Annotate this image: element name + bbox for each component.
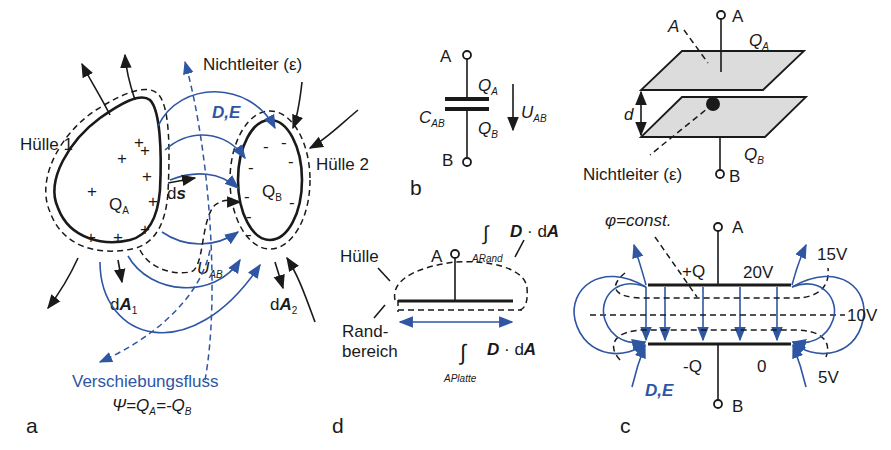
svg-text:+: + <box>142 167 152 186</box>
svg-text:-: - <box>260 228 266 247</box>
panel-label-c: c <box>620 414 631 437</box>
terminal-b <box>714 400 722 408</box>
field-line-de <box>128 256 240 288</box>
da2-label: dA2 <box>270 295 298 316</box>
terminal-a-label: A <box>431 247 443 266</box>
upper-plate <box>641 51 804 90</box>
integral-platte-limit: APlatte <box>443 373 477 384</box>
svg-text:-: - <box>246 225 252 244</box>
integrand-platte: D · dA <box>487 340 536 359</box>
svg-text:-: - <box>289 193 295 212</box>
svg-text:-: - <box>288 152 294 171</box>
svg-text:-: - <box>244 187 250 206</box>
huelle-label: Hülle <box>340 247 379 266</box>
plus-charges: + + + + + + + + + <box>86 133 158 247</box>
phi-const-label: φ=const. <box>605 211 671 230</box>
panel-plate-capacitor: A B A QA QB d Nichtleiter (ε) <box>583 7 806 186</box>
charge-qa-label: QA <box>109 195 129 216</box>
v0-label: 0 <box>757 357 766 376</box>
flux-title: Verschiebungsfluss <box>72 372 218 391</box>
huelle-2-label: Hülle 2 <box>316 155 369 174</box>
terminal-a <box>714 223 722 231</box>
terminal-b-label: B <box>732 397 743 416</box>
fringe-line <box>793 345 806 387</box>
v15-label: 15V <box>817 245 848 264</box>
plus-q-label: +Q <box>682 262 705 281</box>
da1-label: dA1 <box>110 295 138 316</box>
integrand-rand: D · dA <box>510 222 559 241</box>
panel-c: φ=const. A B +Q 20V 15V 10V 5V 0 -Q D,E … <box>574 211 878 437</box>
svg-text:-: - <box>263 137 269 156</box>
qb-label: QB <box>478 119 498 140</box>
nichtleiter-label: Nichtleiter (ε) <box>203 55 302 74</box>
da1-vector <box>118 260 122 282</box>
terminal-a-label: A <box>732 218 744 237</box>
huelle-2-outline <box>230 111 310 249</box>
fringe-line <box>632 345 645 387</box>
panel-a: + + + + + + + + + - - - - - - - - - QA Q… <box>20 55 369 437</box>
field-line-de <box>162 232 238 244</box>
svg-text:+: + <box>86 228 96 247</box>
fringe-line <box>792 284 835 343</box>
panel-b: A B QA QB CAB UAB b <box>410 47 547 199</box>
field-arrow-in <box>293 82 302 128</box>
flux-surface <box>185 62 212 380</box>
uab-label: UAB <box>197 259 223 280</box>
panel-label-b: b <box>410 176 422 199</box>
svg-text:+: + <box>140 220 150 239</box>
terminal-b <box>463 158 471 166</box>
randbereich-label: bereich <box>342 342 398 361</box>
lower-plate <box>641 97 806 137</box>
de-label: D,E <box>212 103 241 122</box>
svg-text:-: - <box>248 158 254 177</box>
panel-d: Hülle Rand- bereich A ∫ ARand D · dA ∫ A… <box>332 222 559 437</box>
svg-text:-: - <box>246 207 252 226</box>
terminal-b <box>716 170 724 178</box>
flux-equation: Ψ=QA=-QB <box>112 396 192 417</box>
integral-rand-limit: ARand <box>471 253 503 264</box>
nichtleiter-label: Nichtleiter (ε) <box>583 165 682 184</box>
v5-label: 5V <box>818 368 839 387</box>
svg-text:+: + <box>140 141 150 160</box>
svg-text:+: + <box>117 149 127 168</box>
field-arrow-in <box>310 110 358 148</box>
terminal-b-label: B <box>729 167 740 186</box>
field-line-de <box>165 135 245 158</box>
randbereich-label: Rand- <box>342 322 388 341</box>
ds-label: ds <box>167 184 186 203</box>
field-arrow-out <box>48 258 78 308</box>
huelle-outline <box>395 262 528 310</box>
integral-platte: ∫ <box>458 340 468 365</box>
fringe-line <box>792 245 806 285</box>
v10-label: 10V <box>847 306 878 325</box>
terminal-a <box>463 51 471 59</box>
qb-label: QB <box>744 145 764 166</box>
field-arrow-out <box>82 64 110 115</box>
capacitor-figure: + + + + + + + + + - - - - - - - - - QA Q… <box>0 0 891 450</box>
svg-text:+: + <box>87 182 97 201</box>
svg-text:-: - <box>281 133 287 152</box>
terminal-a-label: A <box>732 7 744 26</box>
huelle-1-label: Hülle 1 <box>20 135 73 154</box>
terminal-a <box>717 11 725 19</box>
uab-path <box>140 200 240 273</box>
da2-vector <box>275 262 283 288</box>
uab-label: UAB <box>521 103 547 124</box>
charge-qb-label: QB <box>262 182 282 203</box>
svg-text:+: + <box>113 228 123 247</box>
qa-label: QA <box>749 31 769 52</box>
integral-rand: ∫ <box>482 222 490 245</box>
cab-label: CAB <box>419 108 445 129</box>
inner-field-lines <box>646 287 777 340</box>
distance-label: d <box>624 105 634 124</box>
fringe-line <box>634 245 646 285</box>
terminal-a <box>451 250 459 258</box>
de-label: D,E <box>645 381 674 400</box>
area-label: A <box>667 17 679 36</box>
qa-label: QA <box>478 76 498 97</box>
minus-q-label: -Q <box>683 357 702 376</box>
terminal-a-label: A <box>440 47 452 66</box>
panel-label-d: d <box>332 414 344 437</box>
panel-label-a: a <box>26 414 38 437</box>
svg-text:+: + <box>148 192 158 211</box>
